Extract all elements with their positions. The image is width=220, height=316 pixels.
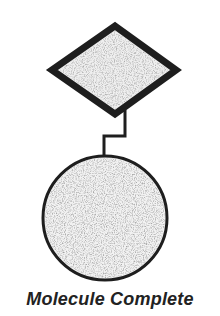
circle-node: [43, 156, 167, 280]
diagram-caption: Molecule Complete: [0, 289, 220, 310]
molecule-diagram: [0, 0, 220, 316]
diamond-node: [52, 26, 176, 114]
